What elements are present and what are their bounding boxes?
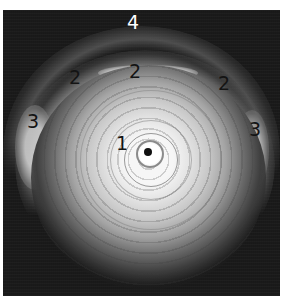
ultrasound-image	[3, 10, 280, 296]
label-2-left: 2	[69, 68, 81, 87]
label-4-outer: 4	[127, 13, 139, 32]
catheter-center-dot	[144, 148, 152, 156]
label-1-catheter: 1	[116, 134, 128, 153]
label-3-left: 3	[27, 112, 39, 131]
label-2-right: 2	[218, 74, 230, 93]
label-2-center: 2	[129, 62, 141, 81]
label-3-right: 3	[249, 120, 261, 139]
